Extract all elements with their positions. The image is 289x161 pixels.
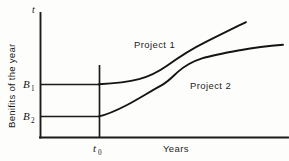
x-tick-t0-label: t xyxy=(93,142,97,154)
y-tick-b2-label: B xyxy=(23,110,30,122)
chart-figure: t Benifits of the year B 1 B 2 t 0 Years… xyxy=(0,0,289,161)
y-axis-label: Benifits of the year xyxy=(6,43,17,128)
x-tick-t0-subscript: 0 xyxy=(98,149,102,157)
project-2-label: Project 2 xyxy=(190,80,231,91)
y-tick-b1-subscript: 1 xyxy=(31,85,35,93)
y-axis-top-symbol: t xyxy=(32,4,35,15)
y-tick-b1-label: B xyxy=(23,78,30,90)
chart-canvas: t Benifits of the year B 1 B 2 t 0 Years… xyxy=(0,0,289,161)
y-tick-b2-subscript: 2 xyxy=(31,117,35,125)
project-1-label: Project 1 xyxy=(134,39,175,50)
x-axis-label: Years xyxy=(163,143,189,154)
